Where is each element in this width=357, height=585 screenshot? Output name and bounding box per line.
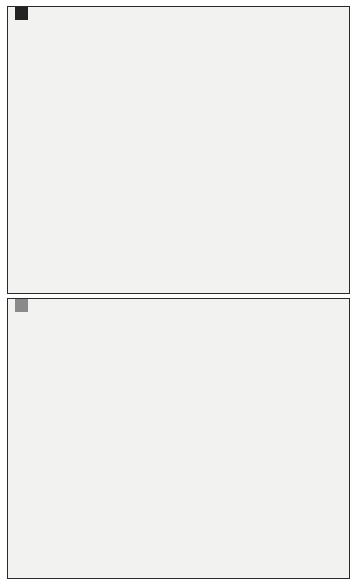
figure-root xyxy=(0,0,357,585)
legend-top-swatch xyxy=(15,7,28,20)
chart-panel-very-big-problem xyxy=(7,6,350,294)
legend-top xyxy=(8,7,28,20)
chart-panel-not-a-big-problem xyxy=(7,298,350,579)
legend-bottom-swatch xyxy=(15,299,28,312)
legend-bottom xyxy=(8,299,28,312)
